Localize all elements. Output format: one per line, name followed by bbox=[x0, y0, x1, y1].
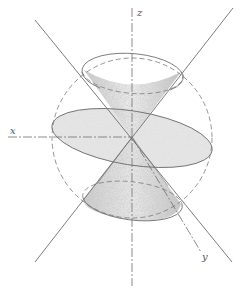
x-axis-label: x bbox=[10, 125, 16, 136]
double-cone-diagram: z x y bbox=[0, 0, 243, 288]
y-axis-label: y bbox=[201, 251, 208, 262]
z-axis-label: z bbox=[136, 7, 143, 18]
